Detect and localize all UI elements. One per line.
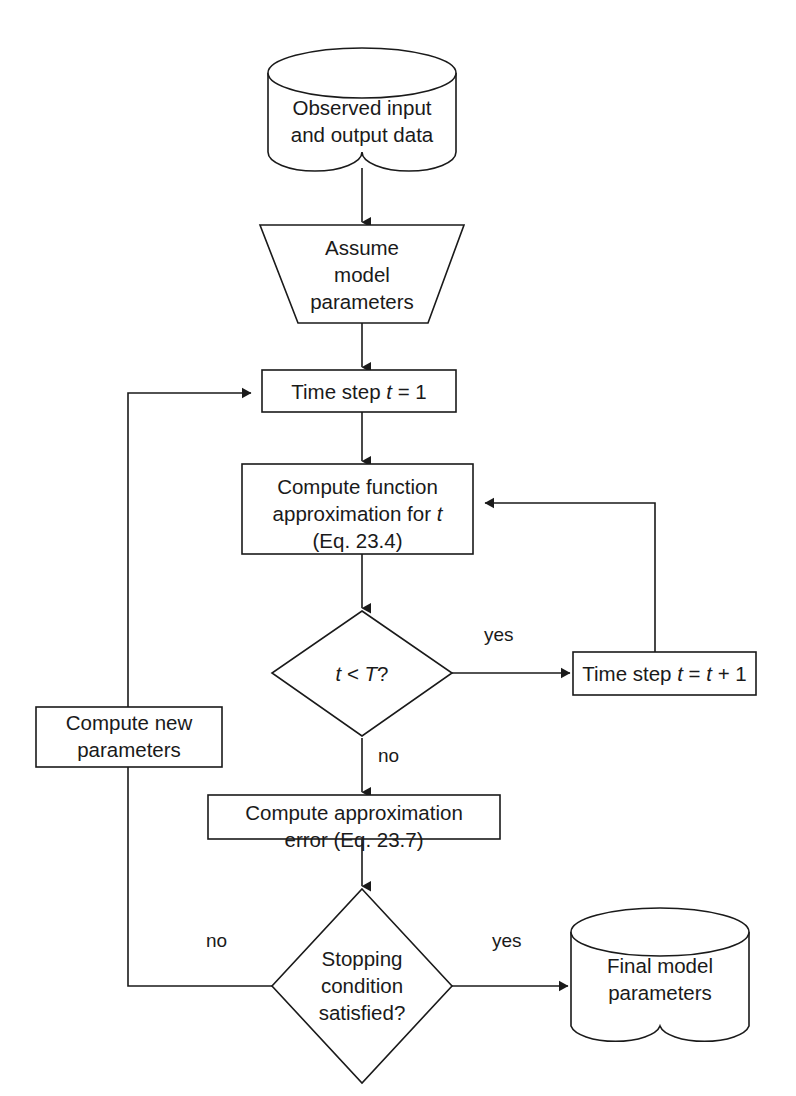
node-stopping-decision xyxy=(272,889,452,1083)
edge-label-stopping-yes: yes xyxy=(492,930,522,952)
node-observed-data xyxy=(268,48,456,171)
node-time-step-init xyxy=(262,370,456,412)
edge-label-time-decision-no: no xyxy=(378,745,399,767)
edge-label-stopping-no: no xyxy=(206,930,227,952)
flowchart-canvas: Observed inputand output data Assumemode… xyxy=(0,0,796,1096)
node-time-step-increment xyxy=(573,652,756,695)
edge-label-time-decision-yes: yes xyxy=(484,624,514,646)
node-assume-parameters xyxy=(260,225,464,323)
node-compute-function xyxy=(242,464,473,554)
flowchart-graphics xyxy=(0,0,796,1096)
node-compute-error xyxy=(208,795,500,839)
node-time-decision xyxy=(272,611,452,736)
node-final-parameters xyxy=(571,908,749,1041)
node-compute-new-parameters xyxy=(36,707,222,767)
